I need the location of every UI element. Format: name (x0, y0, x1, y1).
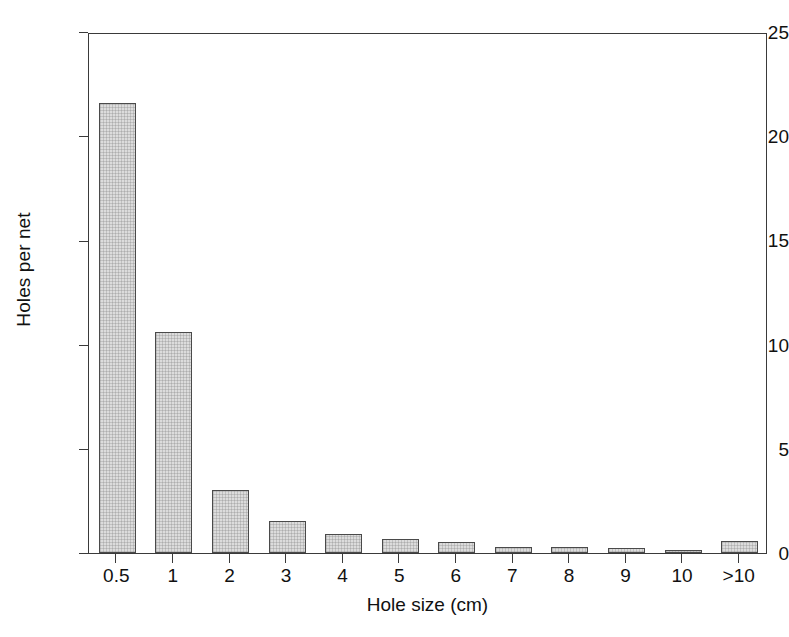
bar (551, 547, 588, 553)
x-axis-title: Hole size (cm) (88, 594, 767, 616)
bar (438, 542, 475, 553)
x-tick-mark (285, 554, 286, 563)
bar (155, 332, 192, 553)
x-tick-label: >10 (699, 566, 779, 587)
bar (495, 547, 532, 553)
bar (721, 541, 758, 554)
y-tick-mark (79, 32, 88, 33)
x-tick-mark (115, 554, 116, 563)
plot-area (88, 33, 767, 554)
x-tick-mark (738, 554, 739, 563)
x-tick-mark (172, 554, 173, 563)
y-axis-title-text: Holes per net (13, 212, 35, 326)
bar (212, 490, 249, 553)
x-tick-mark (681, 554, 682, 563)
x-tick-mark (625, 554, 626, 563)
bar-chart-figure: Holes per net 0510152025 0.512345678910>… (0, 0, 789, 637)
bar (665, 550, 702, 553)
x-tick-mark (455, 554, 456, 563)
bar (269, 521, 306, 553)
y-tick-mark (79, 241, 88, 242)
y-tick-mark (79, 553, 88, 554)
y-axis-title: Holes per net (0, 0, 48, 637)
x-tick-mark (398, 554, 399, 563)
bar (382, 539, 419, 553)
x-tick-mark (568, 554, 569, 563)
bar (608, 548, 645, 553)
x-tick-mark (342, 554, 343, 563)
x-tick-mark (512, 554, 513, 563)
bar (99, 103, 136, 553)
x-tick-mark (229, 554, 230, 563)
y-tick-mark (79, 136, 88, 137)
bar (325, 534, 362, 553)
y-tick-mark (79, 345, 88, 346)
y-tick-mark (79, 449, 88, 450)
